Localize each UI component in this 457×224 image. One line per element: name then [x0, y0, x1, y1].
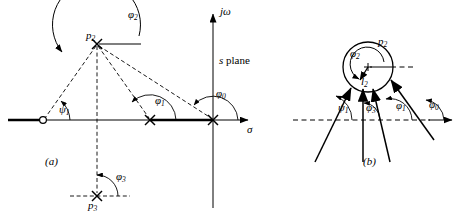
s-plane-label: s s planeplane	[219, 55, 250, 66]
panel-a-tag: (a)	[45, 156, 58, 167]
vector-psi1-b	[315, 88, 351, 162]
panel-b-tag: (b)	[363, 156, 376, 167]
sigma-axis-label: σ	[247, 124, 252, 135]
vector-phi1-b	[373, 89, 390, 162]
vector-p2-to-zero	[45, 46, 96, 118]
phi1-angle-label-b: φ1	[396, 100, 406, 113]
pole-p2-label-b: p2	[378, 36, 387, 49]
figure-root: jω σ s s planeplane p2 p3 φ2 ψ1 φ1 φ0 φ3…	[0, 0, 457, 224]
phi1-angle-label-a: φ1	[155, 95, 165, 108]
phi2-angle-label-a: φ2	[128, 9, 138, 22]
pole-p2-label: p2	[86, 30, 95, 43]
phi2-angle-label-b: φ2	[350, 48, 360, 61]
zero-marker-z1	[40, 117, 47, 124]
panel-a-group	[8, 0, 248, 208]
pole-p3-label: p3	[88, 200, 97, 213]
phi3-angle-label-b: φ3	[366, 102, 376, 115]
phi0-angle-label-b: φ0	[429, 99, 439, 112]
l2-vector-label: l2	[361, 76, 368, 89]
vector-p2-to-pole1	[98, 46, 149, 118]
jomega-axis-label: jω	[220, 6, 231, 17]
psi1-angle-label-a: ψ1	[59, 104, 70, 117]
phi3-angle-label-a: φ3	[116, 171, 126, 184]
phi0-angle-label-a: φ0	[216, 88, 226, 101]
psi1-angle-label-b: ψ1	[338, 102, 349, 115]
